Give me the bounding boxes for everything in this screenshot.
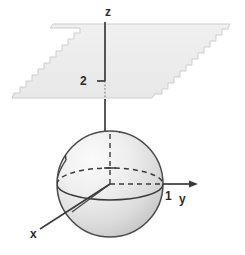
math-figure: z y x 2 1 (0, 0, 245, 255)
figure-canvas: z y x 2 1 (0, 0, 245, 255)
y-tick-label-1: 1 (165, 189, 172, 203)
z-tick-label-2: 2 (80, 74, 87, 88)
y-axis-arrowhead (189, 181, 198, 188)
plane-surface (12, 24, 230, 98)
z-axis-label: z (105, 5, 111, 19)
x-axis-label: x (30, 227, 37, 241)
unit-sphere (55, 93, 163, 250)
y-axis (163, 181, 198, 188)
y-axis-label: y (179, 192, 186, 206)
plane-z-equals-2 (12, 24, 230, 98)
